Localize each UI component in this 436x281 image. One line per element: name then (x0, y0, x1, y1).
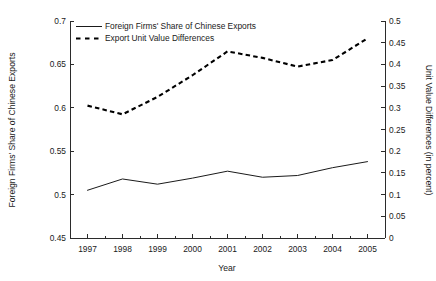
y-right-tick-label: 0.15 (389, 168, 406, 178)
legend-label-0: Foreign Firms' Share of Chinese Exports (105, 21, 256, 31)
x-tick-label: 2001 (218, 244, 237, 254)
x-tick-label: 2000 (183, 244, 202, 254)
y-right-tick-label: 0.5 (389, 16, 401, 26)
y-left-tick-label: 0.7 (54, 16, 66, 26)
x-axis-title: Year (218, 263, 236, 273)
x-tick-label: 1999 (148, 244, 167, 254)
y-left-tick-label: 0.5 (54, 190, 66, 200)
y-left-tick-label: 0.45 (50, 233, 67, 243)
y-right-tick-label: 0.3 (389, 103, 401, 113)
y-left-tick-label: 0.65 (50, 59, 67, 69)
y-right-tick-label: 0.25 (389, 125, 406, 135)
y-axis-left-title: Foreign Firms' Share of Chinese Exports (7, 53, 17, 208)
y-right-tick-label: 0.2 (389, 146, 401, 156)
y-left-tick-label: 0.55 (50, 146, 67, 156)
y-axis-right-title: Unit Value Differences (in percent) (424, 65, 434, 196)
y-right-tick-label: 0 (389, 233, 394, 243)
x-tick-label: 1998 (113, 244, 132, 254)
y-right-tick-label: 0.05 (389, 211, 406, 221)
y-right-tick-label: 0.35 (389, 81, 406, 91)
y-right-tick-label: 0.1 (389, 190, 401, 200)
x-tick-label: 1997 (78, 244, 97, 254)
y-right-tick-label: 0.4 (389, 59, 401, 69)
y-right-tick-label: 0.45 (389, 38, 406, 48)
chart-figure: 0.450.50.550.60.650.7 00.050.10.150.20.2… (0, 0, 436, 281)
x-tick-label: 2005 (358, 244, 377, 254)
x-tick-label: 2003 (288, 244, 307, 254)
x-tick-label: 2002 (253, 244, 272, 254)
x-tick-label: 2004 (323, 244, 342, 254)
y-left-tick-label: 0.6 (54, 103, 66, 113)
legend-label-1: Export Unit Value Differences (105, 33, 214, 43)
chart-container: 0.450.50.550.60.650.7 00.050.10.150.20.2… (0, 0, 436, 281)
